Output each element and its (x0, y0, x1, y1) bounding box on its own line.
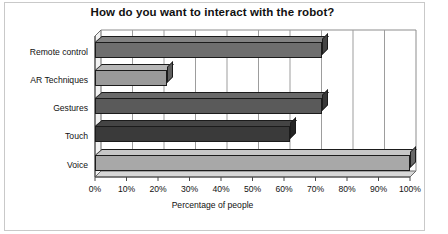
y-axis-label-gestures: Gestures (0, 104, 88, 113)
x-tick-100: 100% (390, 184, 430, 194)
x-axis-title: Percentage of people (0, 200, 425, 210)
bar-front-face (95, 126, 290, 142)
y-axis-label-remote-control: Remote control (0, 48, 88, 57)
bar-voice (95, 155, 410, 171)
bar-chart-figure: How do you want to interact with the rob… (0, 0, 448, 234)
y-axis-label-voice: Voice (0, 161, 88, 170)
plot-area: Remote control AR Techniques Gestures To… (0, 0, 448, 234)
bar-front-face (95, 155, 410, 171)
bar-touch (95, 126, 290, 142)
y-axis-label-ar-techniques: AR Techniques (0, 76, 88, 85)
y-axis-label-touch: Touch (0, 132, 88, 141)
bar-front-face (95, 98, 322, 114)
bar-front-face (95, 70, 167, 86)
bar-remote-control (95, 42, 322, 58)
bar-ar-techniques (95, 70, 167, 86)
bar-gestures (95, 98, 322, 114)
bar-front-face (95, 42, 322, 58)
